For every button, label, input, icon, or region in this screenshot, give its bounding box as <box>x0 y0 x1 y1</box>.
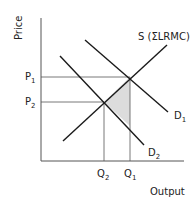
x-axis-label: Output <box>150 186 185 197</box>
supply-demand-diagram: Price Output S (ΣLRMC) D1 D2 P1 P2 Q2 Q1 <box>0 0 196 203</box>
p2-label: P2 <box>25 96 36 110</box>
shaded-area <box>104 77 130 126</box>
d2-label: D2 <box>148 147 160 161</box>
y-axis-label: Price <box>13 16 24 40</box>
d1-label: D1 <box>174 110 186 124</box>
q2-label: Q2 <box>97 168 109 182</box>
q1-label: Q1 <box>124 168 136 182</box>
supply-curve <box>63 45 167 141</box>
p1-label: P1 <box>25 71 36 85</box>
supply-label: S (ΣLRMC) <box>138 31 190 42</box>
